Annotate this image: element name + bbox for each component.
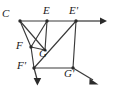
vertex-dot-Eprime — [74, 19, 77, 22]
vertex-dot-E — [45, 19, 48, 22]
vertex-label-C: C — [2, 8, 9, 19]
vertex-dot-group — [18, 19, 77, 69]
ray-down-left-arrowhead — [34, 78, 42, 86]
vertex-dot-Fprime — [32, 66, 35, 69]
ray-down-left-line — [34, 68, 37, 79]
edge-Eprime-Gprime — [73, 21, 76, 68]
ray-down-right-line — [73, 68, 93, 80]
ray-right-arrowhead — [100, 18, 107, 25]
vertex-dot-F — [29, 45, 32, 48]
edge-group — [20, 21, 76, 68]
edge-F-Fprime — [31, 47, 34, 68]
edge-E-G — [45, 21, 47, 50]
ray-down-right-arrowhead — [89, 79, 98, 85]
vertex-label-F: F — [16, 40, 23, 51]
vertex-label-Gprime: G' — [64, 68, 74, 79]
vertex-label-Fprime: F' — [17, 60, 26, 71]
vertex-dot-C — [18, 19, 21, 22]
vertex-label-Eprime: E' — [69, 5, 78, 16]
vertex-label-E: E — [43, 5, 50, 16]
geometry-diagram: C E E' F G F' G' — [0, 0, 115, 90]
vertex-label-G: G — [39, 48, 47, 59]
